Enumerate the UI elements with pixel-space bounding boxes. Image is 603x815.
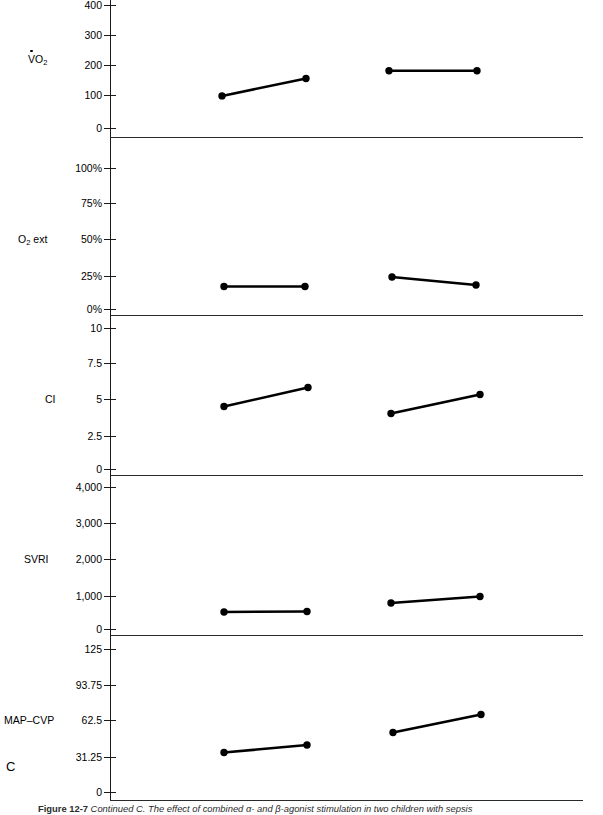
- panel-vo2: VO2 400 300 200 100 0: [0, 0, 603, 160]
- series-patient-2: [387, 391, 483, 417]
- panel-ci: CI 10 7.5 5 2.5 0: [0, 315, 603, 475]
- series-patient-2: [389, 711, 484, 736]
- series-patient-1: [220, 384, 311, 410]
- series-patient-2: [387, 593, 483, 607]
- data-layer-map-cvp: [0, 635, 603, 800]
- panel-letter: C: [6, 760, 15, 773]
- panel-o2-ext: O2 ext 100% 75% 50% 25% 0%: [0, 155, 603, 315]
- series-patient-2: [388, 273, 479, 288]
- panel-map-cvp: MAP–CVP 125 93.75 62.5 31.25 0: [0, 635, 603, 800]
- series-patient-1: [220, 741, 310, 756]
- panel-svri: SVRI 4,000 3,000 2,000 1,000 0: [0, 475, 603, 635]
- data-layer-o2-ext: [0, 155, 603, 315]
- data-layer-ci: [0, 315, 603, 475]
- series-patient-1: [220, 283, 308, 290]
- panel-divider: [110, 137, 583, 138]
- caption-figure-number: Figure 12-7: [38, 803, 88, 814]
- series-patient-1: [218, 75, 309, 100]
- series-patient-2: [385, 67, 480, 74]
- data-layer-svri: [0, 475, 603, 635]
- figure-caption: Figure 12-7 Continued C. The effect of c…: [38, 803, 586, 815]
- caption-text: Continued C. The effect of combined α- a…: [88, 803, 472, 814]
- panel-divider: [110, 800, 583, 801]
- series-patient-1: [220, 608, 310, 616]
- data-layer-vo2: [0, 0, 603, 160]
